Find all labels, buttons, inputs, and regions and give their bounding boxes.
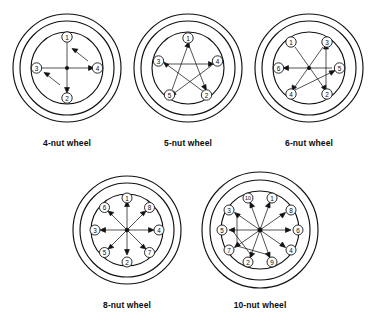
wheel-diagram-4-nut: 1 2 3 4 4-nut wheel <box>8 6 126 156</box>
wheel-caption-6-nut: 6-nut wheel <box>250 138 368 148</box>
hub-center-dot <box>65 66 68 69</box>
nut-label: 5 <box>338 65 342 72</box>
nut-label: 7 <box>148 249 152 256</box>
wheel-diagram-8-nut: 1 2 3 4 5 6 7 <box>68 168 186 318</box>
nut-2: 2 <box>62 93 72 103</box>
nut-label: 1 <box>186 35 190 42</box>
nut-label: 2 <box>205 92 209 99</box>
wheel-diagram-10-nut: 1 2 3 4 5 6 7 <box>196 168 324 318</box>
wheel-caption-5-nut: 5-nut wheel <box>129 138 247 148</box>
nut-label: 3 <box>325 39 329 46</box>
nut-4: 4 <box>92 63 102 73</box>
nut-6: 6 <box>273 63 283 73</box>
nut-label: 2 <box>246 259 250 266</box>
nut-4: 4 <box>212 56 222 66</box>
nut-label: 4 <box>289 91 293 98</box>
wheel-6-svg: 1 2 3 4 5 6 <box>250 6 368 134</box>
nut-3: 3 <box>224 205 234 215</box>
nut-label: 5 <box>220 227 224 234</box>
nut-label: 8 <box>289 207 293 214</box>
nut-label: 3 <box>35 65 39 72</box>
nut-6: 6 <box>293 225 303 235</box>
nut-label: 4 <box>289 247 293 254</box>
nut-5: 5 <box>334 63 344 73</box>
nut-1: 1 <box>267 193 277 203</box>
nut-10: 10 <box>243 193 253 203</box>
nut-8: 8 <box>145 203 155 213</box>
nut-label: 2 <box>125 259 129 266</box>
hub-center-dot <box>307 66 310 69</box>
hub-center-dot <box>125 228 129 232</box>
nut-4: 4 <box>286 89 296 99</box>
nut-2: 2 <box>201 90 211 100</box>
nut-label: 2 <box>65 95 69 102</box>
wheel-caption-8-nut: 8-nut wheel <box>68 300 186 310</box>
wheel-diagram-5-nut: 1 2 3 4 5 5-nut wheel <box>129 6 247 156</box>
nut-label: 10 <box>245 195 251 201</box>
wheel-caption-10-nut: 10-nut wheel <box>196 300 324 310</box>
nut-9: 9 <box>267 257 277 267</box>
nut-8: 8 <box>286 205 296 215</box>
nut-label: 9 <box>270 259 274 266</box>
nut-label: 4 <box>157 227 161 234</box>
nut-5: 5 <box>100 248 110 258</box>
nut-2: 2 <box>122 257 132 267</box>
wheel-nut-sequence-figure: 1 2 3 4 4-nut wheel <box>0 0 368 322</box>
nut-5: 5 <box>217 225 227 235</box>
wheel-5-svg: 1 2 3 4 5 <box>129 6 247 134</box>
wheel-8-svg: 1 2 3 4 5 6 7 <box>68 168 186 296</box>
nut-label: 3 <box>227 207 231 214</box>
nut-label: 6 <box>103 204 107 211</box>
nut-label: 6 <box>277 65 281 72</box>
nut-label: 1 <box>289 39 293 46</box>
wheel-caption-4-nut: 4-nut wheel <box>8 138 126 148</box>
nut-label: 8 <box>148 204 152 211</box>
nut-6: 6 <box>100 203 110 213</box>
nut-7: 7 <box>145 248 155 258</box>
nut-3: 3 <box>153 56 163 66</box>
nut-3: 3 <box>90 225 100 235</box>
nut-label: 4 <box>216 58 220 65</box>
nut-label: 1 <box>270 195 274 202</box>
nut-7: 7 <box>224 245 234 255</box>
nut-1: 1 <box>122 193 132 203</box>
wheel-4-svg: 1 2 3 4 <box>8 6 126 134</box>
nut-label: 2 <box>325 91 329 98</box>
nut-label: 7 <box>227 247 231 254</box>
nut-1: 1 <box>286 37 296 47</box>
nut-label: 3 <box>157 58 161 65</box>
nut-5: 5 <box>164 90 174 100</box>
wheel-diagram-6-nut: 1 2 3 4 5 6 6-nut wheel <box>250 6 368 156</box>
hub-center-dot <box>258 228 262 232</box>
nut-4: 4 <box>286 245 296 255</box>
nut-label: 5 <box>103 249 107 256</box>
nut-3: 3 <box>322 37 332 47</box>
wheel-10-svg: 1 2 3 4 5 6 7 <box>196 168 324 296</box>
nut-label: 1 <box>65 34 69 41</box>
nut-1: 1 <box>62 32 72 42</box>
nut-4: 4 <box>154 225 164 235</box>
nut-label: 6 <box>296 227 300 234</box>
nut-label: 4 <box>96 65 100 72</box>
nut-1: 1 <box>183 33 193 43</box>
nut-2: 2 <box>243 257 253 267</box>
nut-2: 2 <box>322 89 332 99</box>
nut-label: 1 <box>125 195 129 202</box>
nut-label: 3 <box>93 227 97 234</box>
nut-3: 3 <box>31 63 41 73</box>
nut-label: 5 <box>168 92 172 99</box>
